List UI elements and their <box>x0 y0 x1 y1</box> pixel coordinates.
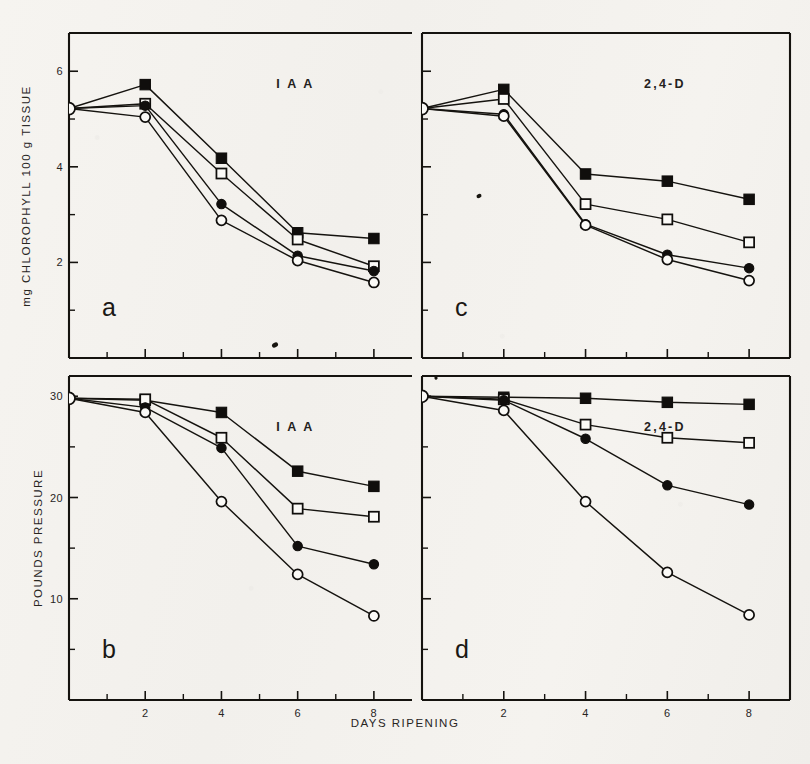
scan-speck-1 <box>476 193 482 199</box>
open-circle-marker <box>293 256 303 266</box>
filled-square-marker <box>580 169 590 179</box>
open-circle-marker <box>662 255 672 265</box>
y-tick-label: 10 <box>50 593 63 605</box>
series-line <box>422 89 749 199</box>
panel-letter-d: d <box>455 635 469 663</box>
y-tick-label: 4 <box>56 161 63 173</box>
series-filled_circle <box>69 101 379 276</box>
filled-square-marker <box>662 397 672 407</box>
open-square-marker <box>293 504 303 514</box>
day-zero-origin-marker <box>69 103 75 115</box>
panel-b: 3020102468I A Ab <box>50 376 412 719</box>
filled-circle-marker <box>293 541 302 550</box>
series-open_circle <box>422 103 754 286</box>
series-filled_circle <box>69 398 379 569</box>
open-circle-marker <box>744 610 754 620</box>
filled-circle-marker <box>663 481 672 490</box>
filled-circle-marker <box>744 263 753 272</box>
panel-title-a: I A A <box>276 77 314 91</box>
panel-d: 24682,4-Dd <box>422 376 790 719</box>
open-square-marker <box>216 169 226 179</box>
filled-circle-marker <box>369 266 378 275</box>
filled-circle-marker <box>581 434 590 443</box>
series-line <box>69 398 374 564</box>
open-square-marker <box>662 433 672 443</box>
x-tick-label: 2 <box>501 707 508 719</box>
series-open_square <box>69 99 379 272</box>
y-tick-label: 2 <box>56 256 63 268</box>
panel-letter-b: b <box>102 635 116 663</box>
series-filled_square <box>422 392 754 409</box>
filled-circle-marker <box>744 500 753 509</box>
open-square-marker <box>744 438 754 448</box>
filled-circle-marker <box>141 101 150 110</box>
open-circle-marker <box>140 407 150 417</box>
x-tick-label: 8 <box>746 707 753 719</box>
x-tick-label: 2 <box>142 707 149 719</box>
filled-square-marker <box>140 79 150 89</box>
series-filled_circle <box>422 109 754 273</box>
panel-a: 642I A Aa <box>56 33 412 358</box>
panel-title-b: I A A <box>276 420 314 434</box>
filled-square-marker <box>216 407 226 417</box>
y-tick-label: 6 <box>56 65 63 77</box>
open-square-marker <box>662 214 672 224</box>
filled-square-marker <box>662 176 672 186</box>
open-square-marker <box>744 237 754 247</box>
series-line <box>422 109 749 281</box>
panel-letter-c: c <box>455 293 468 321</box>
series-line <box>69 104 374 267</box>
x-tick-label: 6 <box>294 707 301 719</box>
filled-circle-marker <box>499 396 508 405</box>
x-axis-title: DAYS RIPENING <box>351 717 460 729</box>
y-axis-title-pressure: POUNDS PRESSURE <box>32 469 44 607</box>
x-tick-label: 6 <box>664 707 671 719</box>
panel-title-d: 2,4-D <box>644 420 686 434</box>
open-circle-marker <box>369 277 379 287</box>
x-tick-label: 4 <box>582 707 589 719</box>
series-open_circle <box>69 392 379 621</box>
figure-caption-clipped <box>430 752 802 763</box>
series-open_circle <box>69 103 379 288</box>
filled-circle-marker <box>217 199 226 208</box>
open-circle-marker <box>369 611 379 621</box>
series-line <box>422 396 749 504</box>
open-square-marker <box>293 234 303 244</box>
open-circle-marker <box>662 567 672 577</box>
open-square-marker <box>369 512 379 522</box>
y-axis-title-chlorophyll: mg CHLOROPHYLL 100 g TISSUE <box>20 85 32 306</box>
open-circle-marker <box>581 220 591 230</box>
y-tick-label: 20 <box>50 492 63 504</box>
open-circle-marker <box>140 112 150 122</box>
filled-square-marker <box>292 466 302 476</box>
y-tick-label: 30 <box>50 390 63 402</box>
open-circle-marker <box>581 497 591 507</box>
scan-speck-0 <box>271 341 279 348</box>
open-circle-marker <box>216 215 226 225</box>
filled-square-marker <box>499 84 509 94</box>
series-filled_circle <box>422 396 754 510</box>
filled-square-marker <box>369 481 379 491</box>
filled-square-marker <box>369 233 379 243</box>
x-tick-label: 4 <box>218 707 225 719</box>
open-square-marker <box>581 420 591 430</box>
open-square-marker <box>499 94 509 104</box>
open-circle-marker <box>499 405 509 415</box>
filled-square-marker <box>744 399 754 409</box>
day-zero-origin-marker <box>422 103 428 115</box>
day-zero-origin-marker <box>69 392 75 404</box>
filled-square-marker <box>216 153 226 163</box>
open-square-marker <box>581 199 591 209</box>
series-line <box>69 109 374 283</box>
filled-circle-marker <box>369 560 378 569</box>
figure-svg: 642I A Aa2,4-Dc3020102468I A Ab24682,4-D… <box>0 0 810 764</box>
panel-title-c: 2,4-D <box>644 77 686 91</box>
filled-square-marker <box>744 194 754 204</box>
open-square-marker <box>216 433 226 443</box>
figure-panel-grid: 642I A Aa2,4-Dc3020102468I A Ab24682,4-D… <box>0 0 810 764</box>
day-zero-origin-marker <box>422 390 428 402</box>
filled-circle-marker <box>217 443 226 452</box>
open-circle-marker <box>216 497 226 507</box>
filled-square-marker <box>580 393 590 403</box>
open-circle-marker <box>499 111 509 121</box>
